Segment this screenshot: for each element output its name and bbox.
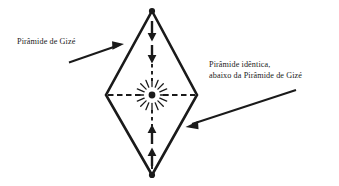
upward-arrow-1 xyxy=(148,125,157,145)
downward-arrow-group xyxy=(148,21,157,64)
starburst-ray xyxy=(137,89,144,92)
figure-canvas: Pirâmide de Gizé Pirâmide idêntica, abai… xyxy=(0,0,339,186)
arrow-head xyxy=(148,148,157,157)
arrow-head xyxy=(148,125,157,134)
center-point-dot xyxy=(149,92,156,99)
pyramid-rhombus-diagram xyxy=(0,0,339,186)
arrow-head xyxy=(112,41,124,50)
arrow-head xyxy=(148,55,157,64)
label-identical-pyramid: Pirâmide idêntica, abaixo da Pirâmide de… xyxy=(209,59,302,81)
starburst-ray xyxy=(155,80,158,87)
arrow-shaft xyxy=(69,46,118,63)
starburst-ray xyxy=(137,98,144,101)
starburst-ray xyxy=(158,84,163,89)
right-label-pointer-arrow xyxy=(186,90,297,129)
vertex-dot-bottom xyxy=(149,172,155,178)
starburst-ray xyxy=(146,103,149,110)
label-giza-pyramid-line-1: Pirâmide de Gizé xyxy=(17,36,75,47)
upward-arrow-2 xyxy=(148,148,157,167)
arrow-shaft xyxy=(192,90,296,124)
starburst-ray xyxy=(146,80,149,87)
downward-arrow-2 xyxy=(148,45,157,64)
starburst-ray xyxy=(158,101,163,106)
left-label-pointer-arrow xyxy=(69,41,124,62)
vertex-dot-top xyxy=(149,8,155,14)
downward-arrow-1 xyxy=(148,21,157,42)
starburst-ray xyxy=(160,89,167,92)
starburst-ray xyxy=(141,84,146,89)
arrow-head xyxy=(148,33,157,42)
label-identical-pyramid-line-1: Pirâmide idêntica, xyxy=(209,59,302,70)
starburst-ray xyxy=(155,103,158,110)
starburst-ray xyxy=(160,98,167,101)
arrow-head xyxy=(186,121,199,129)
label-identical-pyramid-line-2: abaixo da Pirâmide de Gizé xyxy=(209,70,302,81)
upward-arrow-group xyxy=(148,125,157,167)
label-giza-pyramid: Pirâmide de Gizé xyxy=(17,36,75,47)
starburst-ray xyxy=(141,101,146,106)
